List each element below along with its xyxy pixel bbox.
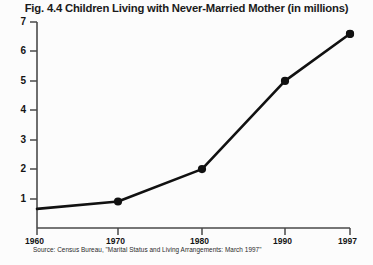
x-axis-label-1997: 1997 — [338, 236, 357, 246]
data-point-1970[interactable] — [198, 165, 206, 173]
data-line-series — [37, 34, 350, 209]
x-axis-label-1990: 1990 — [273, 236, 292, 246]
data-point-1997[interactable] — [346, 30, 354, 38]
x-axis-label-1980: 1980 — [190, 236, 209, 246]
data-point-1980[interactable] — [281, 77, 289, 85]
x-axis-ticks — [37, 228, 350, 235]
y-axis-ticks — [30, 22, 37, 199]
line-chart-svg — [0, 0, 373, 245]
y-axis-label-6: 6 — [10, 45, 26, 56]
data-point-1960[interactable] — [114, 197, 122, 205]
x-axis-label-1970: 1970 — [106, 236, 125, 246]
x-axis-label-1960: 1960 — [25, 236, 44, 246]
source-note: Source: Census Bureau, "Marital Status a… — [33, 246, 262, 253]
y-axis-label-7: 7 — [10, 16, 26, 27]
plot-area: 7 6 5 4 3 2 1 1960 1970 1980 1990 1997 — [0, 0, 373, 245]
y-axis-label-3: 3 — [10, 134, 26, 145]
y-axis-label-1: 1 — [10, 193, 26, 204]
y-axis-label-2: 2 — [10, 163, 26, 174]
figure-container: Fig. 4.4 Children Living with Never-Marr… — [0, 0, 373, 265]
y-axis-label-4: 4 — [10, 104, 26, 115]
y-axis-label-5: 5 — [10, 75, 26, 86]
